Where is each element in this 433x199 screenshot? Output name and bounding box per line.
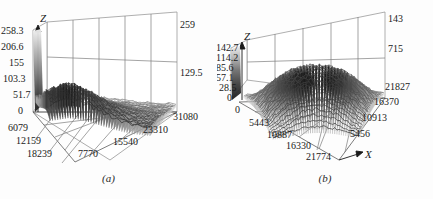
tick-label: 51.7 bbox=[13, 89, 31, 100]
tick-label: 0 bbox=[235, 104, 240, 115]
tick-label: 7770 bbox=[78, 148, 98, 159]
tick-label: 258.3 bbox=[1, 25, 24, 36]
tick-label: 143 bbox=[388, 13, 403, 24]
panel-b-right-wall-ticks: 143 715 bbox=[388, 13, 403, 54]
surface-plot-panel-a: Z 258.3 206 bbox=[0, 0, 217, 199]
tick-label: 23310 bbox=[143, 124, 168, 135]
panel-a-svg: Z 258.3 206 bbox=[0, 0, 217, 199]
panel-b-x-axis: X bbox=[339, 148, 373, 160]
figure-container: Z 258.3 206 bbox=[0, 0, 433, 199]
surface-plot-panel-b: Z X bbox=[217, 0, 433, 199]
tick-label: 10913 bbox=[362, 112, 387, 123]
tick-label: 206.6 bbox=[1, 41, 24, 52]
tick-label: 6079 bbox=[8, 122, 28, 133]
tick-label: 18239 bbox=[27, 148, 52, 159]
tick-label: 12159 bbox=[16, 135, 41, 146]
tick-label: 21774 bbox=[306, 151, 331, 162]
panel-b-z-axis-label: Z bbox=[244, 30, 251, 42]
tick-label: 715 bbox=[388, 43, 403, 54]
panel-b-svg: Z X bbox=[217, 0, 433, 199]
tick-label: 21827 bbox=[385, 81, 410, 92]
tick-label: 103.3 bbox=[3, 73, 26, 84]
tick-label: 10887 bbox=[267, 129, 292, 140]
panel-a-right-wall-ticks: 259 129.5 bbox=[180, 19, 203, 78]
tick-label: 5456 bbox=[350, 128, 370, 139]
tick-label: 31080 bbox=[173, 111, 198, 122]
panel-a-z-axis-label: Z bbox=[40, 12, 47, 24]
tick-label: 16370 bbox=[374, 96, 399, 107]
panel-a-left-floor-ticks: 6079 12159 18239 bbox=[8, 122, 52, 159]
tick-label: 15540 bbox=[113, 136, 138, 147]
panel-a-caption: (a) bbox=[0, 172, 217, 184]
tick-label: 5443 bbox=[249, 117, 269, 128]
tick-label: 0 bbox=[227, 92, 232, 103]
tick-label: 16330 bbox=[286, 140, 311, 151]
panel-a-z-ticks: 258.3 206.6 155 103.3 51.7 0 bbox=[1, 25, 31, 116]
panel-b-x-axis-label: X bbox=[364, 148, 373, 160]
panel-b-caption: (b) bbox=[217, 172, 433, 184]
tick-label: 0 bbox=[18, 105, 23, 116]
tick-label: 129.5 bbox=[180, 67, 203, 78]
tick-label: 155 bbox=[9, 57, 24, 68]
tick-label: 259 bbox=[180, 19, 195, 30]
